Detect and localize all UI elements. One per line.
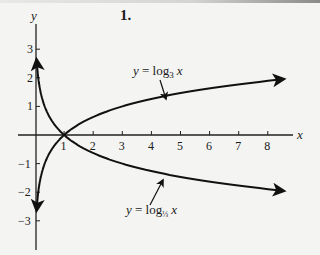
y-tick-label: 2 [27, 71, 33, 85]
y-tick-label: 3 [27, 42, 33, 56]
label-log-one-third: y = log⅓x [124, 180, 177, 219]
x-tick-label: 7 [235, 139, 241, 153]
y-tick-label: −3 [18, 214, 31, 228]
curve-log-one-third [37, 60, 284, 191]
x-tick-label: 3 [119, 139, 125, 153]
y-tick-label: −2 [18, 185, 31, 199]
x-tick-label: 8 [264, 139, 270, 153]
problem-number: 1. [120, 7, 132, 23]
y-tick-label: −1 [18, 157, 31, 171]
curve-log3 [37, 79, 284, 210]
y-axis-label: y [29, 8, 37, 23]
y-tick-label: 1 [27, 99, 33, 113]
svg-text:y = log3x: y = log3x [131, 63, 183, 80]
log-graph: 12345678 321−1−2−3 x y 1. y = log3x y = … [0, 0, 320, 255]
x-ticks: 12345678 [61, 131, 271, 153]
x-tick-label: 5 [177, 139, 183, 153]
x-tick-label: 1 [61, 139, 67, 153]
x-axis-label: x [296, 127, 303, 142]
x-tick-label: 4 [148, 139, 154, 153]
x-tick-label: 6 [206, 139, 212, 153]
